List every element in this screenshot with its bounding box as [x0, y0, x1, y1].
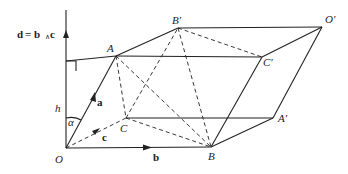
label-h: h: [55, 102, 61, 114]
label-O: O: [55, 153, 63, 165]
label-alpha: α: [68, 116, 74, 128]
right-angle-marker: [66, 61, 76, 71]
diagram-canvas: d = b ∧ c O A B C B′ C′ O′ A′ h α a b c: [0, 0, 348, 174]
label-C: C: [120, 122, 128, 134]
label-vector-b: b: [153, 151, 159, 163]
label-c-title: c: [50, 28, 55, 40]
label-B: B: [208, 150, 215, 162]
d-axis-arrow-icon: [63, 30, 69, 38]
vector-a-arrow-icon: [90, 92, 96, 102]
label-A: A: [106, 42, 114, 54]
label-vector-c: c: [102, 131, 107, 143]
label-C-prime: C′: [263, 56, 273, 68]
label-eq-b: = b: [25, 28, 40, 40]
label-vector-a: a: [97, 96, 103, 108]
label-O-prime: O′: [325, 13, 336, 25]
label-B-prime: B′: [172, 14, 182, 26]
vector-b-arrow-icon: [143, 145, 152, 151]
parallelepiped-diagram: d = b ∧ c O A B C B′ C′ O′ A′ h α a b c: [0, 0, 348, 174]
label-d: d: [17, 28, 23, 40]
solid-edges: [66, 27, 322, 148]
label-A-prime: A′: [277, 112, 288, 124]
